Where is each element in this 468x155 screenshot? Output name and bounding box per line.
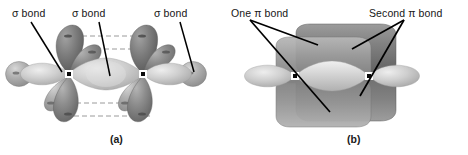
label-sigma-bond-2: σ bond (72, 7, 105, 19)
label-one-pi-bond: One π bond (231, 7, 288, 19)
label-sigma-bond-1: σ bond (12, 7, 45, 19)
p-orbital-left-lower-front (53, 76, 78, 122)
label-sigma-bond-3: σ bond (154, 7, 187, 19)
orbital-bonding-figure: σ bond σ bond σ bond One π bond Second π… (0, 0, 468, 155)
caption-panel-a: (a) (110, 133, 123, 145)
label-second-pi-bond: Second π bond (369, 7, 442, 19)
panel-b-graphic (245, 20, 420, 127)
panel-a-graphic (6, 22, 207, 122)
figure-canvas (0, 0, 468, 155)
nucleus-marker-left (65, 70, 73, 78)
nucleus-marker-right (139, 70, 147, 78)
caption-panel-b: (b) (347, 133, 360, 145)
